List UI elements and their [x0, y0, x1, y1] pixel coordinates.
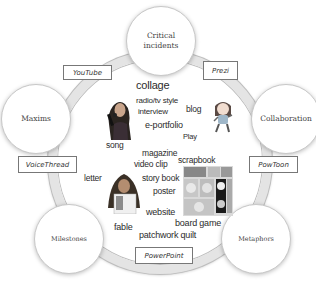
- word-scrapbook: scrapbook: [178, 155, 215, 165]
- tool-label: VoiceThread: [26, 161, 69, 169]
- cartoon-girl-icon: [212, 98, 234, 134]
- node-milestones: Milestones: [34, 204, 104, 274]
- board-game-icon: [183, 166, 233, 216]
- tool-label: PowerPoint: [144, 252, 183, 260]
- node-label: Milestones: [51, 235, 87, 244]
- tool-powtoon: PowToon: [249, 156, 298, 173]
- word-interview: interview: [138, 107, 168, 116]
- word-collage: collage: [136, 79, 169, 91]
- word-patchwork-quilt: patchwork quilt: [139, 230, 196, 240]
- node-label: Metaphors: [238, 235, 274, 244]
- node-label: Critical: [144, 31, 179, 41]
- word-e-portfolio: e-portfolio: [145, 120, 183, 130]
- word-blog: blog: [186, 104, 201, 114]
- tool-label: Prezi: [212, 67, 229, 75]
- word-fable: fable: [114, 222, 133, 232]
- node-maxims: Maxims: [1, 84, 71, 154]
- node-label: incidents: [144, 41, 179, 51]
- node-label: Collaboration: [260, 114, 312, 124]
- board-game-photo: [183, 166, 233, 216]
- word-magazine: magazine: [142, 148, 177, 158]
- word-radio-tv-style: radio/tv style: [136, 96, 178, 105]
- tool-label: PowToon: [258, 161, 289, 169]
- word-song: song: [106, 140, 124, 150]
- singer-icon: [101, 96, 139, 140]
- word-story-book: story book: [142, 173, 179, 183]
- node-label: Maxims: [21, 114, 51, 124]
- tool-powerpoint: PowerPoint: [135, 247, 193, 264]
- tool-label: YouTube: [73, 69, 102, 77]
- teacher-icon: [104, 168, 144, 214]
- teacher-photo: [104, 168, 144, 214]
- tool-prezi: Prezi: [203, 61, 238, 80]
- node-critical-incidents: Critical incidents: [126, 6, 196, 76]
- word-letter: letter: [84, 173, 102, 183]
- tool-voicethread: VoiceThread: [18, 156, 77, 173]
- word-play: Play: [183, 132, 197, 141]
- tool-youtube: YouTube: [63, 65, 112, 80]
- node-collaboration: Collaboration: [251, 84, 316, 154]
- word-video-clip: video clip: [134, 159, 167, 169]
- word-board-game: board game: [175, 218, 221, 228]
- word-website: website: [146, 207, 175, 217]
- word-poster: poster: [153, 186, 175, 196]
- singer-photo: [101, 96, 139, 140]
- cartoon-girl: [212, 98, 234, 134]
